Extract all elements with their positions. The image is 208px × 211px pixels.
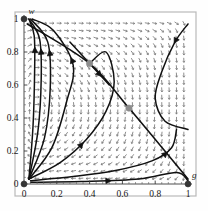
x-tick-label-3: 0.6 xyxy=(116,189,128,199)
equilibrium-interior-upper xyxy=(86,60,92,66)
x-axis-label: g xyxy=(192,170,197,180)
y-tick-label-2: 0.4 xyxy=(7,113,19,123)
phase-portrait-figure: 00.20.40.60.8100.20.40.60.81 g w xyxy=(0,0,208,211)
y-axis-label: w xyxy=(29,6,35,16)
x-tick-label-4: 0.8 xyxy=(149,189,161,199)
y-tick-label-1: 0.2 xyxy=(7,146,19,156)
plot-canvas: 00.20.40.60.8100.20.40.60.81 g w xyxy=(0,0,208,211)
x-tick-label-0: 0 xyxy=(22,189,27,199)
equilibrium-interior-lower xyxy=(126,105,132,111)
x-tick-label-2: 0.4 xyxy=(84,189,96,199)
x-tick-label-1: 0.2 xyxy=(51,189,63,199)
y-tick-label-4: 0.8 xyxy=(7,47,19,57)
y-tick-label-0: 0 xyxy=(14,179,19,189)
x-tick-label-5: 1 xyxy=(186,189,191,199)
y-tick-label-5: 1 xyxy=(14,14,19,24)
y-tick-label-3: 0.6 xyxy=(7,80,19,90)
